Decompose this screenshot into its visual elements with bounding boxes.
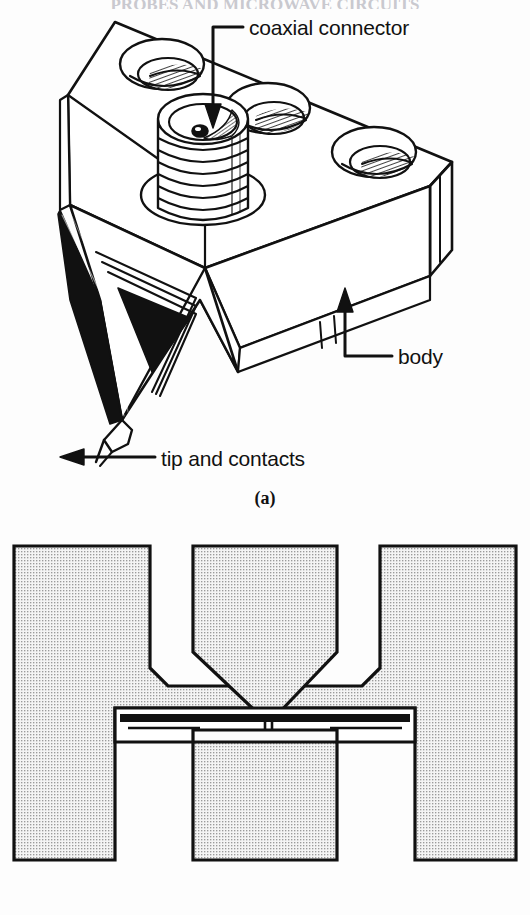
- label-body: body: [398, 345, 443, 368]
- center-conductor-pin: [192, 125, 208, 137]
- label-tip-and-contacts: tip and contacts: [161, 447, 305, 470]
- probe-tip: [104, 420, 132, 452]
- figure-panel-a: coaxial connector body tip and contacts …: [0, 0, 530, 530]
- label-coaxial-connector: coaxial connector: [249, 16, 409, 39]
- caption-panel-a: (a): [255, 488, 276, 509]
- coaxial-connector: [141, 94, 265, 225]
- leader-tip-and-contacts: [60, 449, 155, 465]
- center-signal-pad: [193, 742, 337, 860]
- figure-page: PROBES AND MICROWAVE CIRCUITS: [0, 0, 530, 915]
- figure-panel-b: [0, 530, 530, 915]
